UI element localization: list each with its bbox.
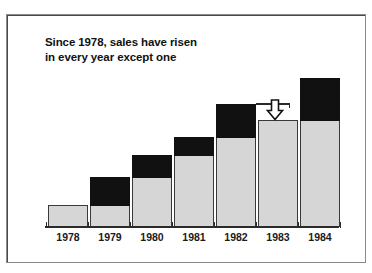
bar-1978 bbox=[48, 205, 88, 227]
bar-1983 bbox=[258, 120, 298, 227]
bar-1982 bbox=[216, 137, 256, 227]
axis-tick bbox=[172, 222, 173, 228]
x-axis-label-1981: 1981 bbox=[173, 231, 215, 243]
callout-leader-line-vertical bbox=[289, 103, 291, 108]
axis-tick bbox=[256, 222, 257, 228]
bar-1980 bbox=[132, 177, 172, 227]
bar-1984-increment bbox=[300, 78, 340, 121]
bar-1979-increment bbox=[90, 177, 130, 206]
bar-1981 bbox=[174, 155, 214, 227]
bar-1982-increment bbox=[216, 104, 256, 138]
x-axis-label-1980: 1980 bbox=[131, 231, 173, 243]
x-axis-label-1983: 1983 bbox=[257, 231, 299, 243]
axis-tick bbox=[46, 222, 47, 228]
bar-1979 bbox=[90, 205, 130, 227]
axis-tick bbox=[214, 222, 215, 228]
bar-1984 bbox=[300, 120, 340, 227]
axis-tick bbox=[298, 222, 299, 228]
bar-1981-increment bbox=[174, 137, 214, 156]
down-arrow-icon bbox=[266, 99, 284, 121]
bar-1980-increment bbox=[132, 155, 172, 178]
axis-tick bbox=[130, 222, 131, 228]
x-axis-label-1979: 1979 bbox=[89, 231, 131, 243]
axis-tick bbox=[340, 222, 341, 228]
x-axis-baseline bbox=[45, 226, 339, 228]
x-axis-label-1982: 1982 bbox=[215, 231, 257, 243]
axis-tick bbox=[88, 222, 89, 228]
plot-area: 1978 1979 1980 1981 1982 1983 1984 bbox=[0, 0, 372, 273]
x-axis-label-1978: 1978 bbox=[47, 231, 89, 243]
x-axis-label-1984: 1984 bbox=[299, 231, 341, 243]
chart-figure: Since 1978, sales have risen in every ye… bbox=[0, 0, 372, 273]
